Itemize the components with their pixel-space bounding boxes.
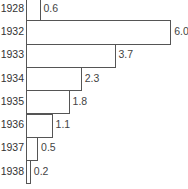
category-label: 1933 [0,48,24,60]
bar-row: 19361.1 [0,114,188,137]
category-label: 1928 [0,2,24,14]
category-label: 1934 [0,72,24,84]
bar [26,114,53,138]
category-label: 1938 [0,165,24,177]
category-label: 1937 [0,141,24,153]
category-label: 1935 [0,95,24,107]
value-label: 6.0 [174,25,188,37]
value-label: 0.5 [41,141,56,153]
value-label: 0.2 [34,165,49,177]
value-label: 3.7 [119,48,134,60]
bar-row: 19326.0 [0,20,188,43]
category-label: 1936 [0,118,24,130]
bar-row: 19342.3 [0,67,188,90]
horizontal-bar-chart: 19280.619326.019333.719342.319351.819361… [0,0,188,189]
bar-row: 19280.6 [0,0,188,20]
value-label: 2.3 [85,72,100,84]
bar [26,44,116,68]
value-label: 1.1 [56,118,71,130]
category-label: 1932 [0,25,24,37]
bar [26,0,41,21]
bar [26,160,31,184]
bar [26,90,70,114]
bar [26,20,171,44]
value-label: 0.6 [44,2,59,14]
bar-row: 19380.2 [0,160,188,183]
bar-row: 19333.7 [0,44,188,67]
bar-row: 19370.5 [0,137,188,160]
bar [26,137,38,161]
value-label: 1.8 [73,95,88,107]
bar [26,67,82,91]
bar-row: 19351.8 [0,90,188,113]
